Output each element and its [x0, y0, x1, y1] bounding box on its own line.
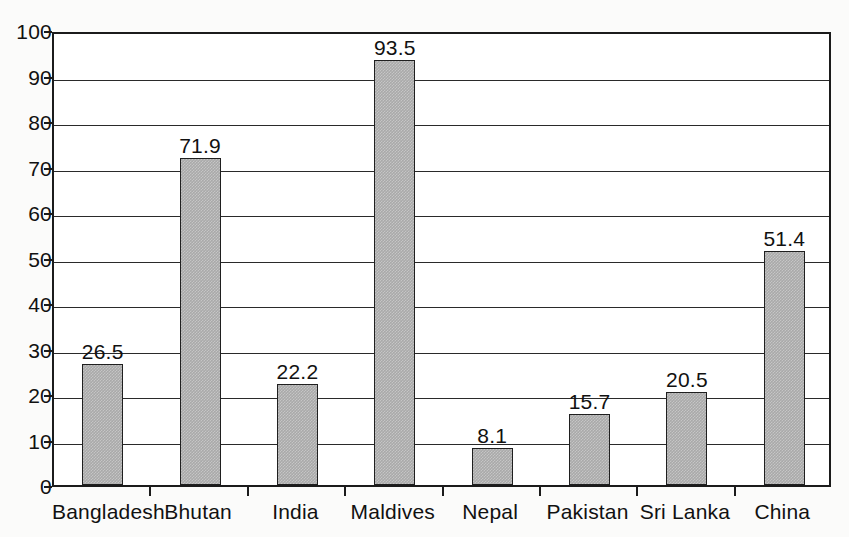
x-axis-tick-mark	[539, 487, 541, 496]
y-axis-tick-mark	[44, 213, 52, 215]
gridline	[54, 262, 829, 263]
bar-value-label-china: 51.4	[736, 227, 833, 251]
y-axis-tick-mark	[44, 350, 52, 352]
y-axis-tick-mark	[44, 486, 52, 488]
gridline	[54, 353, 829, 354]
gridline	[54, 125, 829, 126]
gridline	[54, 171, 829, 172]
gridline	[54, 307, 829, 308]
y-axis-tick-mark	[44, 259, 52, 261]
x-axis-category-label-bhutan: Bhutan	[149, 500, 246, 524]
x-axis-tick-mark	[636, 487, 638, 496]
x-axis-category-label-sri-lanka: Sri Lanka	[636, 500, 733, 524]
bar-value-label-india: 22.2	[249, 360, 346, 384]
x-axis-category-label-nepal: Nepal	[442, 500, 539, 524]
x-axis-category-label-maldives: Maldives	[344, 500, 441, 524]
bar-value-label-sri-lanka: 20.5	[638, 368, 735, 392]
bar-value-label-bhutan: 71.9	[151, 134, 248, 158]
bar-pakistan	[569, 414, 610, 485]
gridline	[54, 216, 829, 217]
bar-value-label-maldives: 93.5	[346, 36, 443, 60]
bar-nepal	[472, 448, 513, 485]
x-axis-category-label-pakistan: Pakistan	[539, 500, 636, 524]
bar-value-label-nepal: 8.1	[444, 424, 541, 448]
bar-china	[764, 251, 805, 485]
x-axis-category-label-india: India	[247, 500, 344, 524]
x-axis-category-label-china: China	[734, 500, 831, 524]
y-axis-tick-mark	[44, 304, 52, 306]
plot-area: 26.571.922.293.58.115.720.551.4	[52, 32, 831, 487]
bar-chart-screenshot: 0102030405060708090100 26.571.922.293.58…	[0, 0, 849, 537]
bar-bhutan	[180, 158, 221, 485]
gridline	[54, 444, 829, 445]
y-axis: 0102030405060708090100	[0, 32, 52, 487]
x-axis-tick-mark	[247, 487, 249, 496]
gridline	[54, 398, 829, 399]
bar-bangladesh	[82, 364, 123, 485]
x-axis-category-label-bangladesh: Bangladesh	[52, 500, 149, 524]
y-axis-tick-mark	[44, 77, 52, 79]
x-axis-tick-mark	[734, 487, 736, 496]
y-axis-tick-mark	[44, 31, 52, 33]
x-axis-tick-mark	[442, 487, 444, 496]
x-axis-tick-mark	[344, 487, 346, 496]
y-axis-tick-mark	[44, 168, 52, 170]
y-axis-tick-mark	[44, 441, 52, 443]
bar-india	[277, 384, 318, 485]
y-axis-tick-mark	[44, 395, 52, 397]
y-axis-tick-mark	[44, 122, 52, 124]
bar-value-label-bangladesh: 26.5	[54, 340, 151, 364]
x-axis-tick-mark	[149, 487, 151, 496]
bar-maldives	[374, 60, 415, 485]
bar-value-label-pakistan: 15.7	[541, 390, 638, 414]
gridline	[54, 80, 829, 81]
x-axis: BangladeshBhutanIndiaMaldivesNepalPakist…	[52, 487, 831, 537]
bar-sri-lanka	[666, 392, 707, 485]
